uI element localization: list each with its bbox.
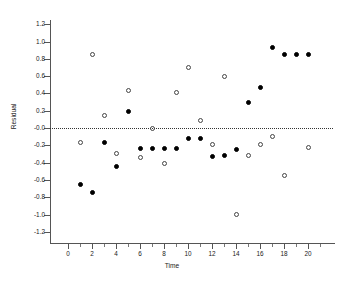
- data-point-open: [198, 118, 203, 123]
- data-point-filled: [222, 153, 227, 158]
- data-point-filled: [150, 146, 155, 151]
- data-point-open: [282, 173, 287, 178]
- x-tick-label: 8: [154, 251, 174, 257]
- data-point-open: [90, 52, 95, 57]
- data-point-open: [126, 88, 131, 93]
- y-tick-label: 1.0: [36, 39, 45, 45]
- data-point-open: [210, 142, 215, 147]
- y-tick-label: -0.0: [34, 125, 45, 131]
- data-point-filled: [294, 52, 299, 57]
- data-point-filled: [198, 136, 203, 141]
- x-tick-mark: [236, 244, 237, 249]
- data-point-filled: [162, 146, 167, 151]
- residual-scatter-figure: 1.21.00.80.60.40.2-0.0-0.2-0.4-0.6-0.8-1…: [0, 0, 344, 283]
- x-tick-minor: [272, 244, 273, 247]
- x-tick-minor: [128, 244, 129, 247]
- data-point-open: [150, 126, 155, 131]
- data-point-open: [186, 65, 191, 70]
- data-point-open: [306, 145, 311, 150]
- x-tick-mark: [284, 244, 285, 249]
- data-point-open: [138, 155, 143, 160]
- x-tick-label: 18: [274, 251, 294, 257]
- x-tick-mark: [188, 244, 189, 249]
- x-tick-minor: [176, 244, 177, 247]
- data-point-filled: [126, 109, 131, 114]
- data-point-filled: [174, 146, 179, 151]
- x-tick-mark: [140, 244, 141, 249]
- data-point-open: [246, 153, 251, 158]
- data-point-filled: [234, 147, 239, 152]
- data-point-filled: [186, 136, 191, 141]
- data-point-filled: [210, 154, 215, 159]
- data-point-filled: [246, 100, 251, 105]
- x-tick-minor: [296, 244, 297, 247]
- data-point-open: [270, 134, 275, 139]
- x-tick-mark: [92, 244, 93, 249]
- data-point-open: [234, 212, 239, 217]
- data-point-filled: [114, 164, 119, 169]
- x-tick-label: 4: [106, 251, 126, 257]
- y-tick-label: 0.6: [36, 73, 45, 79]
- data-point-filled: [258, 85, 263, 90]
- x-tick-mark: [116, 244, 117, 249]
- y-tick-label: -1.2: [34, 229, 45, 235]
- x-tick-minor: [104, 244, 105, 247]
- y-tick-label: -1.0: [34, 212, 45, 218]
- x-tick-minor: [224, 244, 225, 247]
- data-point-filled: [270, 45, 275, 50]
- data-point-open: [114, 151, 119, 156]
- data-point-open: [162, 161, 167, 166]
- x-tick-label: 0: [58, 251, 78, 257]
- data-point-open: [222, 74, 227, 79]
- y-tick-label: -0.2: [34, 142, 45, 148]
- y-tick-label: 1.2: [36, 21, 45, 27]
- x-tick-label: 2: [82, 251, 102, 257]
- x-tick-minor: [152, 244, 153, 247]
- x-tick-minor: [200, 244, 201, 247]
- y-tick-label: 0.4: [36, 90, 45, 96]
- y-tick-label: -0.6: [34, 177, 45, 183]
- x-tick-label: 20: [298, 251, 318, 257]
- x-tick-minor: [248, 244, 249, 247]
- x-tick-mark: [308, 244, 309, 249]
- x-tick-label: 12: [202, 251, 222, 257]
- data-point-filled: [78, 182, 83, 187]
- data-point-filled: [90, 190, 95, 195]
- x-tick-label: 14: [226, 251, 246, 257]
- y-axis-title: Residual: [10, 87, 17, 147]
- x-axis-title: Time: [0, 262, 344, 269]
- data-point-open: [78, 140, 83, 145]
- x-tick-mark: [68, 244, 69, 249]
- x-tick-mark: [164, 244, 165, 249]
- data-point-filled: [282, 52, 287, 57]
- data-point-filled: [306, 52, 311, 57]
- y-tick-label: -0.8: [34, 194, 45, 200]
- x-tick-minor: [320, 244, 321, 247]
- x-tick-mark: [212, 244, 213, 249]
- x-tick-minor: [80, 244, 81, 247]
- x-tick-label: 10: [178, 251, 198, 257]
- x-tick-label: 6: [130, 251, 150, 257]
- data-point-open: [174, 90, 179, 95]
- x-tick-label: 16: [250, 251, 270, 257]
- y-tick-label: 0.8: [36, 56, 45, 62]
- data-point-open: [258, 142, 263, 147]
- y-tick-label: -0.4: [34, 160, 45, 166]
- data-point-filled: [138, 146, 143, 151]
- y-tick-label: 0.2: [36, 108, 45, 114]
- x-tick-mark: [260, 244, 261, 249]
- data-point-filled: [102, 140, 107, 145]
- plot-area: [50, 20, 330, 243]
- data-point-open: [102, 113, 107, 118]
